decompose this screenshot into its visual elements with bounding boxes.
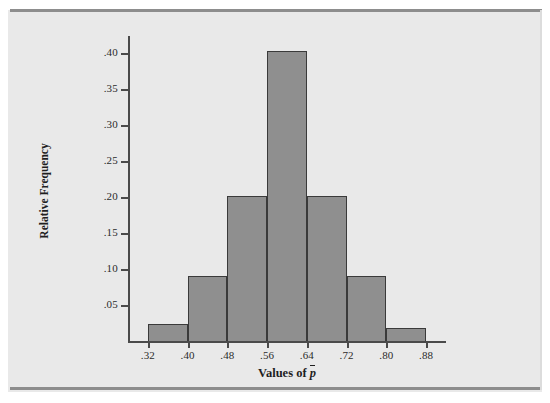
y-axis-tick-label: .15 bbox=[92, 226, 118, 238]
x-axis-line bbox=[128, 341, 446, 343]
y-axis-tick bbox=[121, 125, 129, 127]
y-axis-tick-label: .40 bbox=[92, 46, 118, 58]
figure-page: .05.10.15.20.25.30.35.40 .32.40.48.56.64… bbox=[0, 0, 550, 403]
x-axis-tick bbox=[426, 341, 428, 348]
y-axis-tick-label: .25 bbox=[92, 154, 118, 166]
histogram-bar bbox=[188, 276, 228, 343]
x-axis-tick-label: .88 bbox=[409, 349, 443, 361]
y-axis-tick-label: .10 bbox=[92, 262, 118, 274]
x-axis-tick bbox=[267, 341, 269, 348]
x-axis-tick bbox=[386, 341, 388, 348]
x-axis-tick bbox=[307, 341, 309, 348]
y-axis-tick-label: .20 bbox=[92, 190, 118, 202]
y-axis-tick bbox=[121, 305, 129, 307]
x-axis-tick bbox=[148, 341, 150, 348]
y-axis-tick-label: .05 bbox=[92, 298, 118, 310]
y-axis-tick bbox=[121, 197, 129, 199]
y-axis-tick-label: .35 bbox=[92, 82, 118, 94]
p-bar-symbol: p bbox=[310, 365, 316, 381]
y-axis-tick bbox=[121, 161, 129, 163]
x-axis-tick-label: .32 bbox=[131, 349, 165, 361]
histogram-bar bbox=[307, 196, 347, 343]
y-axis-tick bbox=[121, 233, 129, 235]
x-axis-tick-label: .64 bbox=[290, 349, 324, 361]
x-axis-tick-label: .72 bbox=[330, 349, 364, 361]
histogram-plot: .05.10.15.20.25.30.35.40 .32.40.48.56.64… bbox=[0, 0, 550, 403]
y-axis-tick bbox=[121, 269, 129, 271]
y-axis-title: Relative Frequency bbox=[38, 111, 50, 271]
histogram-bar bbox=[267, 51, 307, 343]
x-axis-tick-label: .80 bbox=[369, 349, 403, 361]
x-axis-tick bbox=[347, 341, 349, 348]
x-axis-tick-label: .56 bbox=[250, 349, 284, 361]
x-axis-tick-label: .48 bbox=[210, 349, 244, 361]
histogram-bar bbox=[347, 276, 387, 343]
y-axis-tick-label: .30 bbox=[92, 118, 118, 130]
histogram-bar bbox=[227, 196, 267, 343]
x-axis-tick bbox=[227, 341, 229, 348]
y-axis-line bbox=[128, 36, 130, 343]
x-axis-title-text: Values of bbox=[258, 366, 310, 380]
x-axis-tick-label: .40 bbox=[171, 349, 205, 361]
y-axis-tick bbox=[121, 89, 129, 91]
y-axis-tick bbox=[121, 53, 129, 55]
x-axis-tick bbox=[188, 341, 190, 348]
x-axis-title: Values of p bbox=[128, 365, 446, 381]
